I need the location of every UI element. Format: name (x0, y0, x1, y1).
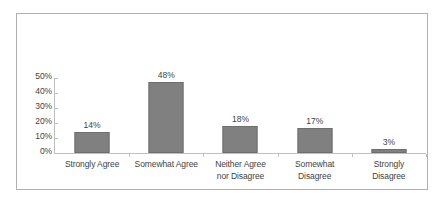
y-axis-tick-label: 50% (17, 72, 52, 81)
x-axis-tick-mark (129, 154, 130, 157)
x-axis-category-label-line: Disagree (352, 171, 426, 183)
x-axis-category-label-line: Neither Agree (203, 159, 277, 171)
bar[interactable] (297, 128, 332, 153)
bar[interactable] (223, 126, 258, 153)
x-axis-category-label: Strongly Disagree (352, 159, 426, 182)
y-axis-tick-label: 30% (17, 102, 52, 111)
x-axis-tick-mark (203, 154, 204, 157)
y-axis-tick-label: 10% (17, 132, 52, 141)
y-axis-tick-label: 40% (17, 87, 52, 96)
bar-value-label: 14% (84, 121, 101, 130)
y-axis-tick-labels: 50% 40% 30% 20% 10% 0% (17, 72, 52, 152)
bar-group: 48% (129, 14, 203, 153)
x-axis-category-label-line: nor Disagree (203, 171, 277, 183)
x-axis-category-label: Somewhat Disagree (278, 159, 352, 182)
bar-series: 14% 48% 18% 17% 3% (55, 14, 426, 153)
bar-group: 3% (352, 14, 426, 153)
bar-chart-plot-area: 50% 40% 30% 20% 10% 0% 14% 48% (17, 14, 429, 191)
x-axis-category-label: Somewhat Agree (129, 159, 203, 171)
y-axis-tick-label: 20% (17, 117, 52, 126)
x-axis-category-label-line: Strongly (352, 159, 426, 171)
bar-value-label: 17% (306, 117, 323, 126)
x-axis-category-label: Neither Agree nor Disagree (203, 159, 277, 182)
y-axis-tick-label: 0% (17, 147, 52, 156)
bar-group: 14% (55, 14, 129, 153)
x-axis-tick-mark (426, 154, 427, 157)
x-axis-category-label-line: Somewhat (278, 159, 352, 171)
x-axis-tick-mark (278, 154, 279, 157)
bar-group: 18% (203, 14, 277, 153)
bar[interactable] (149, 82, 184, 154)
chart-frame: 50% 40% 30% 20% 10% 0% 14% 48% (16, 13, 428, 190)
bar-value-label: 3% (383, 138, 395, 147)
bar-value-label: 48% (158, 71, 175, 80)
x-axis-line (54, 153, 426, 154)
x-axis-category-label-line: Somewhat Agree (129, 159, 203, 171)
x-axis-tick-mark (352, 154, 353, 157)
x-axis-category-label: Strongly Agree (55, 159, 129, 171)
bar-group: 17% (278, 14, 352, 153)
x-axis-category-labels: Strongly Agree Somewhat Agree Neither Ag… (55, 159, 426, 191)
bar-value-label: 18% (232, 115, 249, 124)
x-axis-category-label-line: Strongly Agree (55, 159, 129, 171)
bar[interactable] (75, 132, 110, 153)
x-axis-category-label-line: Disagree (278, 171, 352, 183)
